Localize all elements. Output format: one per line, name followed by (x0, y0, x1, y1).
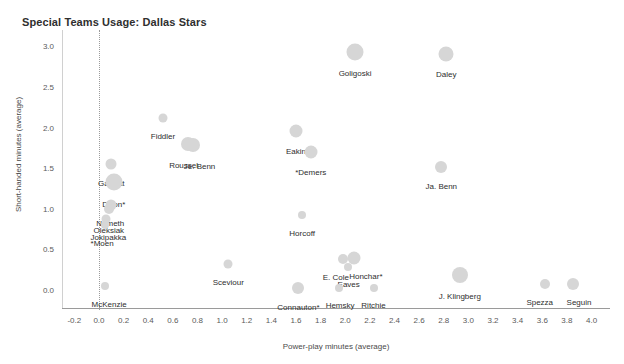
y-tick-label: 2.0 (28, 123, 54, 132)
data-point-label: Connauton* (277, 303, 319, 312)
data-point[interactable] (101, 221, 109, 229)
data-point[interactable] (104, 204, 114, 214)
y-tick-label: 1.0 (28, 204, 54, 213)
chart-title: Special Teams Usage: Dallas Stars (22, 16, 207, 28)
data-point[interactable] (224, 260, 233, 269)
x-tick-label: -0.2 (67, 316, 81, 325)
data-point-label: Hemsky (326, 301, 355, 310)
data-point-label: Eakin (286, 147, 306, 156)
y-axis-title: Short-handed minutes (average) (14, 45, 23, 265)
x-tick-label: 4.0 (586, 316, 597, 325)
x-tick-label: 0.2 (118, 316, 129, 325)
x-tick-label: 3.8 (561, 316, 572, 325)
data-point-label: Honchar* (349, 272, 382, 281)
x-tick-label: 1.4 (266, 316, 277, 325)
x-tick-label: 1.8 (315, 316, 326, 325)
x-tick-label: 2.8 (438, 316, 449, 325)
x-axis-title: Power-play minutes (average) (62, 342, 610, 351)
x-tick-label: 1.2 (241, 316, 252, 325)
x-tick-label: 2.0 (340, 316, 351, 325)
data-point[interactable] (435, 161, 447, 173)
x-tick-label: 0.6 (167, 316, 178, 325)
y-tick-label: 2.5 (28, 82, 54, 91)
data-point-label: Je. Benn (184, 162, 216, 171)
data-point-label: Seguin (567, 298, 592, 307)
data-point[interactable] (292, 282, 304, 294)
data-point-label: Daley (436, 70, 456, 79)
data-point-label: Fiddler (151, 132, 175, 141)
x-tick-label: 1.0 (217, 316, 228, 325)
x-tick-label: 3.0 (463, 316, 474, 325)
y-tick-label: 1.5 (28, 164, 54, 173)
data-point-label: Ritchie (361, 301, 385, 310)
data-point[interactable] (158, 113, 167, 122)
data-point[interactable] (101, 282, 109, 290)
data-point[interactable] (567, 278, 579, 290)
data-point-label: *Demers (295, 168, 326, 177)
x-tick-label: 3.4 (512, 316, 523, 325)
y-tick-label: 0.5 (28, 245, 54, 254)
x-tick-label: 3.2 (487, 316, 498, 325)
x-tick-label: 1.6 (290, 316, 301, 325)
x-tick-label: 3.6 (537, 316, 548, 325)
data-point[interactable] (304, 145, 317, 158)
data-point[interactable] (347, 43, 364, 60)
data-point[interactable] (289, 124, 302, 137)
data-point-label: *Moen (91, 239, 114, 248)
x-tick-label: 2.4 (389, 316, 400, 325)
data-point[interactable] (452, 267, 468, 283)
x-tick-label: 0.0 (93, 316, 104, 325)
data-point-label: Ja. Benn (425, 182, 457, 191)
data-point-label: Spezza (526, 298, 553, 307)
x-tick-label: 2.6 (414, 316, 425, 325)
data-point[interactable] (344, 263, 352, 271)
data-point[interactable] (106, 159, 117, 170)
y-tick-label: 3.0 (28, 42, 54, 51)
data-point[interactable] (370, 284, 378, 292)
y-tick-label: 0.0 (28, 286, 54, 295)
data-point[interactable] (105, 174, 122, 191)
data-point-label: Horcoff (289, 229, 315, 238)
data-point-label: McKenzie (92, 300, 127, 309)
data-point[interactable] (335, 284, 343, 292)
scatter-chart: Special Teams Usage: Dallas Stars Goligo… (0, 0, 624, 364)
data-point[interactable] (298, 211, 306, 219)
data-point-label: Goligoski (339, 69, 372, 78)
data-point[interactable] (347, 251, 360, 264)
data-point[interactable] (439, 47, 454, 62)
x-tick-label: 0.4 (143, 316, 154, 325)
data-point-label: J. Klingberg (439, 292, 481, 301)
data-point[interactable] (186, 138, 200, 152)
x-tick-label: 2.2 (364, 316, 375, 325)
plot-area: GoligoskiDaleyFiddlerEakinRousselJe. Ben… (62, 30, 610, 308)
data-point-label: Sceviour (213, 278, 244, 287)
data-point[interactable] (540, 279, 550, 289)
x-tick-label: 0.8 (192, 316, 203, 325)
